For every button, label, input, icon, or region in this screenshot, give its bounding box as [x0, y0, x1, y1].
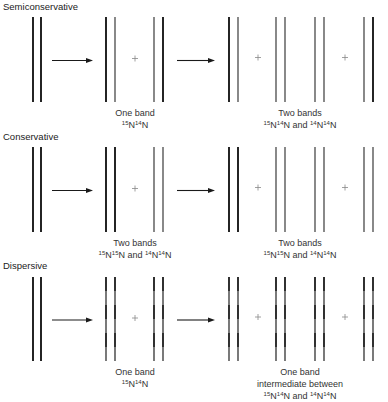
conservative-arrow-1-icon-head — [86, 188, 93, 193]
label-line: One band — [115, 107, 155, 119]
label-line: 15N15N and 14N14N — [99, 249, 172, 261]
diagram-artwork — [0, 0, 388, 402]
conservative-gen1-label: Two bands15N15N and 14N14N — [99, 237, 172, 261]
label-line: One band — [257, 366, 343, 378]
label-line: Two bands — [264, 107, 337, 119]
semiconservative-gen2-label: Two bands15N14N and 14N14N — [264, 107, 337, 131]
row-title-dispersive: Dispersive — [3, 260, 47, 271]
semiconservative-arrow-2-icon-head — [208, 58, 215, 63]
label-line: One band — [115, 366, 155, 378]
dispersive-arrow-1-icon-head — [86, 318, 93, 323]
conservative-gen2-label: Two bands15N15N and 14N14N — [264, 237, 337, 261]
row-title-conservative: Conservative — [3, 131, 58, 142]
conservative-arrow-2-icon-head — [208, 188, 215, 193]
label-line: 15N15N and 14N14N — [264, 249, 337, 261]
label-line: 15N14N — [115, 378, 155, 390]
dispersive-gen1-label: One band15N14N — [115, 366, 155, 390]
label-line: 15N14N and 14N14N — [257, 390, 343, 402]
dispersive-gen2-label: One bandintermediate between15N14N and 1… — [257, 366, 343, 402]
semiconservative-arrow-1-icon-head — [86, 58, 93, 63]
label-line: 15N14N — [115, 119, 155, 131]
row-title-semiconservative: Semiconservative — [3, 1, 78, 12]
dispersive-arrow-2-icon-head — [208, 318, 215, 323]
label-line: 15N14N and 14N14N — [264, 119, 337, 131]
label-line: Two bands — [264, 237, 337, 249]
semiconservative-gen1-label: One band15N14N — [115, 107, 155, 131]
dna-replication-models-diagram: Semiconservative Conservative Dispersive… — [0, 0, 388, 402]
label-line: intermediate between — [257, 378, 343, 390]
label-line: Two bands — [99, 237, 172, 249]
